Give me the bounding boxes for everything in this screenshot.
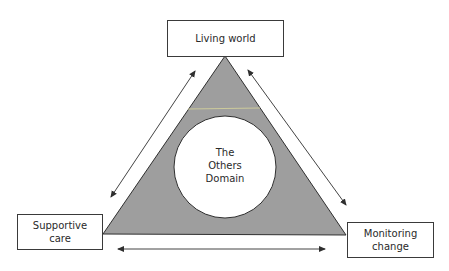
center-label-line-1: The: [216, 147, 235, 158]
node-living-world: Living world: [167, 20, 284, 57]
node-monitoring-change-label: Monitoring change: [364, 227, 417, 253]
node-supportive-care: Supportive care: [17, 214, 103, 250]
others-domain-diagram: Living world Supportive care Monitoring …: [0, 0, 449, 271]
node-living-world-label: Living world: [195, 32, 255, 45]
node-monitoring-change: Monitoring change: [347, 222, 434, 258]
node-supportive-care-label: Supportive care: [33, 219, 87, 245]
center-label-line-3: Domain: [206, 173, 245, 184]
node-monitoring-change-line-1: Monitoring: [364, 228, 417, 239]
node-monitoring-change-line-2: change: [372, 241, 409, 252]
center-label-line-2: Others: [208, 160, 242, 171]
others-domain-label: The Others Domain: [175, 146, 275, 185]
node-supportive-care-line-1: Supportive: [33, 220, 87, 231]
node-supportive-care-line-2: care: [49, 233, 71, 244]
